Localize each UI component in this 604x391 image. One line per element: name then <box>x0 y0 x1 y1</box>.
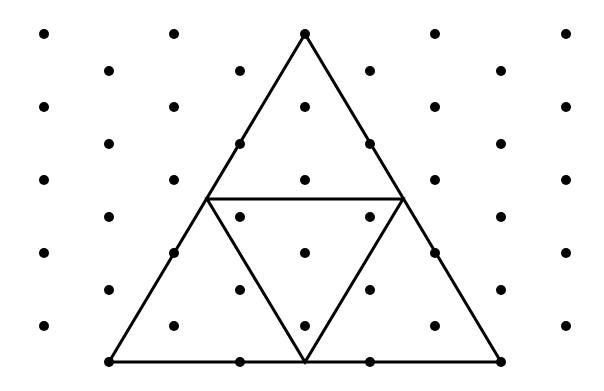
grid-dot <box>430 102 440 112</box>
grid-dot <box>300 321 310 331</box>
grid-dot <box>300 175 310 185</box>
grid-dot <box>39 29 49 39</box>
grid-dot <box>235 285 245 295</box>
grid-dot <box>561 248 571 258</box>
grid-dot <box>104 139 114 149</box>
grid-dot <box>561 29 571 39</box>
grid-dot <box>430 321 440 331</box>
grid-dot <box>365 66 375 76</box>
background <box>0 0 604 391</box>
grid-dot <box>430 29 440 39</box>
grid-dot <box>235 212 245 222</box>
grid-dot <box>169 102 179 112</box>
grid-dot <box>561 175 571 185</box>
grid-dot <box>496 66 506 76</box>
grid-dot <box>235 66 245 76</box>
grid-dot <box>300 102 310 112</box>
grid-dot <box>365 285 375 295</box>
grid-dot <box>104 212 114 222</box>
dot-grid-diagram <box>0 0 604 391</box>
grid-dot <box>39 321 49 331</box>
grid-dot <box>496 212 506 222</box>
grid-dot <box>561 102 571 112</box>
grid-dot <box>496 285 506 295</box>
grid-dot <box>39 102 49 112</box>
grid-dot <box>300 248 310 258</box>
grid-dot <box>365 212 375 222</box>
grid-dot <box>169 29 179 39</box>
grid-dot <box>169 175 179 185</box>
grid-dot <box>169 321 179 331</box>
grid-dot <box>104 66 114 76</box>
grid-dot <box>104 285 114 295</box>
grid-dot <box>39 175 49 185</box>
grid-dot <box>39 248 49 258</box>
diagram-canvas <box>0 0 604 391</box>
grid-dot <box>430 175 440 185</box>
grid-dot <box>496 139 506 149</box>
grid-dot <box>561 321 571 331</box>
